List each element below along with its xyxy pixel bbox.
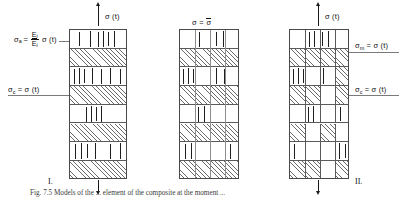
layer-mixed <box>290 49 348 68</box>
layer-matrix <box>180 49 238 68</box>
sigma-a-formula: σa=EiEiσ (t) <box>14 31 57 49</box>
layer-mixed <box>290 161 348 179</box>
layer-fibre <box>180 67 238 86</box>
layer-matrix <box>70 161 126 179</box>
layer-matrix <box>70 86 126 105</box>
sigma-equals-sigmabar-label: σ=σ <box>192 19 211 27</box>
figure-caption: Fig. 7.5 Models of the ... element of th… <box>30 189 225 197</box>
leader-sigma-c-left <box>8 95 71 96</box>
roman-numeral-I: I. <box>48 177 53 186</box>
leader-sigma-m <box>347 52 399 53</box>
composite-block-I <box>69 29 127 179</box>
column-divider <box>195 30 196 178</box>
layer-fibre <box>180 105 238 124</box>
layer-matrix <box>180 86 238 105</box>
layer-fibre <box>180 30 238 49</box>
layer-matrix <box>70 49 126 68</box>
sigma-c-label-left: σc= σ (t) <box>8 86 39 94</box>
column-divider <box>225 30 226 178</box>
leader-sigma-c-right <box>347 95 399 96</box>
layer-fibre <box>180 142 238 161</box>
layer-fibre <box>70 30 126 49</box>
layer-mixed <box>290 30 348 49</box>
composite-block-II <box>289 29 349 179</box>
column-divider <box>210 30 211 178</box>
sigma-m-label: σm= σ (t) <box>355 42 388 50</box>
layer-mixed <box>290 124 348 143</box>
layer-mixed <box>290 142 348 161</box>
layer-fibre <box>70 67 126 86</box>
layer-mixed <box>290 67 348 86</box>
figure-root: σ (t) σa=EiEiσ (t) σc= σ (t) <box>0 0 399 198</box>
layer-mixed <box>290 86 348 105</box>
top-arrow-label-left: σ (t) <box>105 13 120 21</box>
layer-matrix <box>70 124 126 143</box>
top-arrow-label-right: σ (t) <box>325 13 340 21</box>
layer-mixed <box>290 105 348 124</box>
layer-fibre <box>70 105 126 124</box>
sigma-c-label-right: σc= σ (t) <box>355 86 386 94</box>
layer-matrix <box>180 124 238 143</box>
layer-matrix <box>180 161 238 179</box>
composite-block-middle <box>179 29 239 179</box>
layer-fibre <box>70 142 126 161</box>
roman-numeral-II: II. <box>355 177 362 186</box>
